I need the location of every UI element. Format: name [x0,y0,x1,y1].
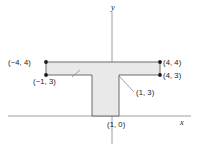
leader-line-1-3 [119,76,134,92]
x-axis-label: x [180,119,184,127]
coordinate-geometry-figure: (−4, 4) (−1, 3) (4, 4) (4, 3) (1, 3) (1,… [0,0,200,153]
point-label-neg4-4: (−4, 4) [8,59,31,67]
y-axis-label: y [111,4,115,12]
vertex-marker-4-3 [158,73,162,77]
point-label-1-3: (1, 3) [136,89,154,97]
point-label-4-4: (4, 4) [163,59,181,67]
point-label-4-3: (4, 3) [163,72,181,80]
point-label-neg1-3: (−1, 3) [33,78,56,86]
vertex-marker-neg4-4 [44,60,48,64]
vertex-marker-4-4 [158,60,162,64]
point-label-1-0: (1, 0) [107,121,125,129]
